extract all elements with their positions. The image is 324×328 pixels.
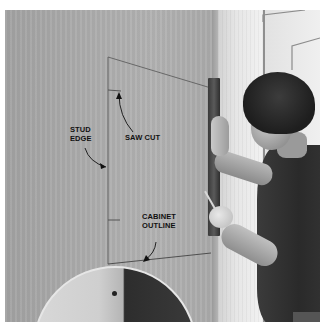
label-cabinet-outline: CABINET OUTLINE (142, 213, 176, 230)
mirror-reflection-dot (112, 291, 117, 296)
person-hand-with-pencil (209, 206, 233, 228)
photo: STUD EDGE SAW CUT CABINET OUTLINE (5, 10, 320, 322)
person-jeans (293, 312, 320, 322)
person-hand-holding-level (211, 116, 229, 156)
label-saw-cut: SAW CUT (125, 134, 160, 143)
label-stud-edge: STUD EDGE (70, 126, 92, 143)
person-hair (243, 72, 315, 134)
